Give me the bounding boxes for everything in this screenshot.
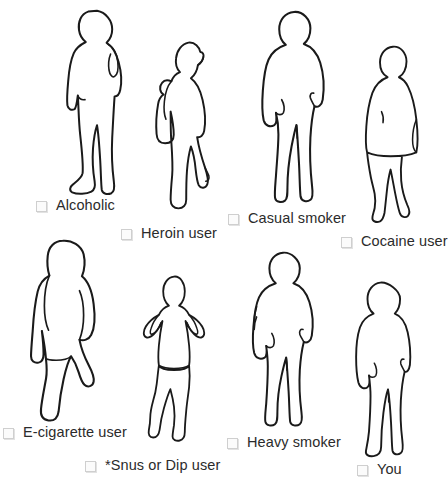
- option-label-cocaine-user: Cocaine user: [361, 234, 448, 249]
- checkbox-heavy-smoker[interactable]: [227, 438, 238, 449]
- figure-heavy-smoker: [243, 248, 323, 432]
- checkbox-alcoholic[interactable]: [36, 201, 47, 212]
- figure-heroin-user: [148, 38, 226, 220]
- figure-alcoholic: [57, 6, 137, 202]
- option-label-e-cigarette-user: E-cigarette user: [23, 425, 127, 440]
- checkbox-you[interactable]: [357, 465, 368, 476]
- figure-e-cigarette-user: [16, 236, 112, 422]
- option-e-cigarette-user[interactable]: E-cigarette user: [3, 425, 127, 440]
- checkbox-cocaine-user[interactable]: [341, 237, 352, 248]
- option-label-alcoholic: Alcoholic: [56, 198, 115, 213]
- option-alcoholic[interactable]: Alcoholic: [36, 198, 115, 213]
- checkbox-casual-smoker[interactable]: [228, 214, 239, 225]
- option-label-heavy-smoker: Heavy smoker: [247, 435, 341, 450]
- figure-cocaine-user: [358, 42, 430, 226]
- option-label-heroin-user: Heroin user: [141, 226, 217, 241]
- option-label-casual-smoker: Casual smoker: [248, 211, 346, 226]
- option-cocaine-user[interactable]: Cocaine user: [341, 234, 448, 249]
- option-casual-smoker[interactable]: Casual smoker: [228, 211, 346, 226]
- option-you[interactable]: You: [357, 462, 402, 477]
- checkbox-e-cigarette-user[interactable]: [3, 428, 14, 439]
- figure-snus-or-dip-user: [138, 272, 210, 452]
- silhouette-checklist-page: Alcoholic Heroin user Casual smoker: [0, 0, 448, 483]
- option-heroin-user[interactable]: Heroin user: [121, 226, 217, 241]
- figure-casual-smoker: [253, 7, 335, 208]
- figure-you: [344, 278, 416, 460]
- option-snus-or-dip-user[interactable]: *Snus or Dip user: [85, 458, 220, 473]
- option-label-snus-or-dip-user: *Snus or Dip user: [105, 458, 220, 473]
- option-heavy-smoker[interactable]: Heavy smoker: [227, 435, 341, 450]
- checkbox-heroin-user[interactable]: [121, 229, 132, 240]
- option-label-you: You: [377, 462, 402, 477]
- checkbox-snus-or-dip-user[interactable]: [85, 461, 96, 472]
